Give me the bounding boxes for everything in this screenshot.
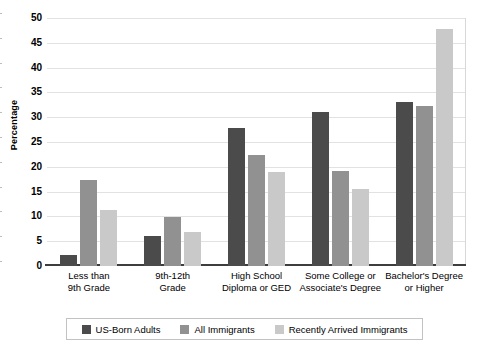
- x-axis-category-labels: Less than9th Grade9th-12thGradeHigh Scho…: [47, 270, 466, 304]
- bar: [416, 106, 433, 266]
- y-axis-tick-mark: [0, 87, 2, 88]
- bar: [352, 189, 369, 266]
- y-axis-tick-mark: [0, 112, 2, 113]
- legend-item: All Immigrants: [180, 324, 254, 335]
- x-axis-category-label: Bachelor's Degreeor Higher: [370, 270, 478, 294]
- y-axis-tick-mark: [0, 63, 2, 64]
- bar: [332, 171, 349, 266]
- bar-chart: Percentage 05101520253035404550 Less tha…: [0, 0, 484, 352]
- y-axis-tick-mark: [0, 162, 2, 163]
- y-axis-tick-label: 15: [2, 187, 42, 197]
- legend-swatch: [180, 325, 189, 334]
- bar: [60, 255, 77, 266]
- y-axis-tick-mark: [0, 38, 2, 39]
- y-axis-tick-label: 45: [2, 38, 42, 48]
- bar: [80, 180, 97, 266]
- y-axis-tick-mark: [0, 187, 2, 188]
- bar: [268, 172, 285, 266]
- y-axis-tick-mark: [0, 236, 2, 237]
- chart-legend: US-Born AdultsAll ImmigrantsRecently Arr…: [66, 318, 423, 340]
- bar: [144, 236, 161, 266]
- bars-layer: [47, 18, 466, 266]
- y-axis-tick-label: 20: [2, 162, 42, 172]
- legend-label: All Immigrants: [194, 324, 254, 335]
- y-axis-tick-mark: [0, 211, 2, 212]
- bar: [164, 217, 181, 266]
- legend-swatch: [275, 325, 284, 334]
- legend-label: Recently Arrived Immigrants: [289, 324, 408, 335]
- y-axis-tick-label: 5: [2, 236, 42, 246]
- bar: [184, 232, 201, 266]
- legend-swatch: [82, 325, 91, 334]
- y-axis-tick-label: 50: [2, 13, 42, 23]
- y-axis-tick-label: 40: [2, 63, 42, 73]
- bar-group: [215, 18, 299, 266]
- bar-group: [47, 18, 131, 266]
- y-axis-tick-mark: [0, 261, 2, 262]
- legend-label: US-Born Adults: [96, 324, 161, 335]
- y-axis-tick-mark: [0, 137, 2, 138]
- y-axis-tick-mark: [0, 13, 2, 14]
- bar-group: [298, 18, 382, 266]
- bar: [228, 128, 245, 266]
- y-axis-tick-label: 30: [2, 112, 42, 122]
- bar-group: [382, 18, 466, 266]
- y-axis-tick-label: 25: [2, 137, 42, 147]
- y-axis-tick-label: 10: [2, 211, 42, 221]
- bar: [312, 112, 329, 266]
- legend-item: US-Born Adults: [82, 324, 161, 335]
- legend-item: Recently Arrived Immigrants: [275, 324, 408, 335]
- bar: [436, 29, 453, 266]
- bar: [100, 210, 117, 266]
- x-axis-category-label-line: or Higher: [370, 282, 478, 294]
- bar: [248, 155, 265, 266]
- bar-group: [131, 18, 215, 266]
- y-axis-tick-label: 35: [2, 87, 42, 97]
- bar: [396, 102, 413, 266]
- x-axis-category-label-line: Bachelor's Degree: [370, 270, 478, 282]
